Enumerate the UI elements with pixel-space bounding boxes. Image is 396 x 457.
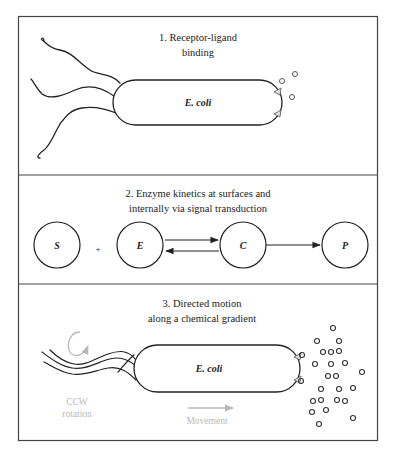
panel-1-title-line2: binding [182,47,215,58]
panel-3-directed-motion: 3. Directed motion along a chemical grad… [42,298,365,427]
panel-3-title-line2: along a chemical gradient [148,313,256,324]
rotation-label-line1: CCW [66,397,88,407]
cell-label: E. coli [184,97,212,108]
flagella [31,38,120,158]
ccw-rotation-arrow [68,332,88,355]
panel-1-receptor-ligand: 1. Receptor-ligand binding E. coli [31,32,298,158]
movement-label: Movement [186,416,228,426]
panel-2-title-line1: 2. Enzyme kinetics at surfaces and [125,188,271,199]
enzyme-label: E [136,240,144,251]
cell-label: E. coli [195,363,223,374]
flagella-bundle [42,350,136,380]
ligand-gradient [299,326,365,427]
panel-2-title-line2: internally via signal transduction [129,203,268,214]
plus-sign: + [95,244,100,254]
substrate-label: S [54,240,60,251]
ligand-molecules [280,72,298,100]
panel-2-enzyme-kinetics: 2. Enzyme kinetics at surfaces and inter… [34,188,368,268]
rotation-label-line2: rotation [62,409,92,419]
panel-3-title-line1: 3. Directed motion [162,298,242,309]
chemotaxis-diagram: 1. Receptor-ligand binding E. coli 2. En… [0,0,396,457]
complex-label: C [240,240,247,251]
product-label: P [342,240,349,251]
panel-1-title-line1: 1. Receptor-ligand [159,32,238,43]
